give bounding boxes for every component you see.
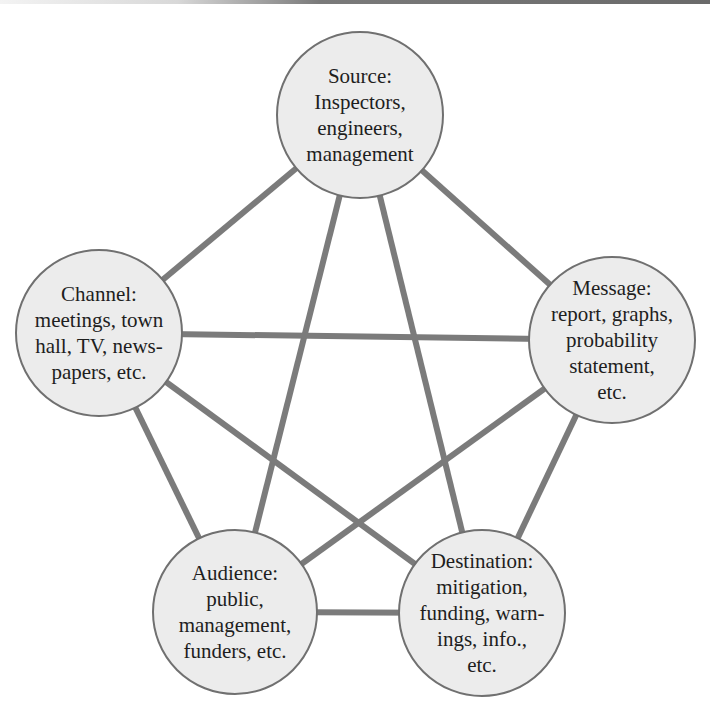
node-channel-circle	[16, 250, 182, 416]
node-source-circle	[277, 32, 443, 198]
node-audience-circle	[153, 530, 317, 694]
node-message-circle	[529, 257, 695, 423]
node-destination-circle	[399, 530, 565, 696]
communication-network-diagram	[0, 0, 710, 717]
nodes	[16, 32, 695, 696]
